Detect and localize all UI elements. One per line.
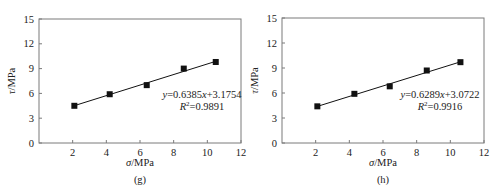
r-squared: R2=0.9916 (417, 100, 463, 112)
y-tick-label: 6 (29, 88, 34, 99)
y-tick-label: 12 (24, 38, 35, 49)
x-tick-label: 12 (236, 147, 247, 158)
plot-frame (282, 18, 484, 143)
r2-value: =0.9891 (190, 101, 225, 112)
data-point (181, 66, 187, 72)
y-axis-title: τ/MPa (249, 67, 260, 94)
regression-equation: y=0.6289x+3.0722 (400, 89, 480, 100)
r-squared: R2=0.9891 (179, 100, 225, 112)
eq-intercept: +3.1754 (207, 89, 243, 100)
y-axis-title: τ/MPa (6, 67, 17, 94)
y-tick-label: 15 (24, 14, 35, 25)
panel-label: (h) (377, 174, 390, 186)
y-axis-unit: /MPa (6, 67, 17, 90)
y-tick-label: 0 (272, 138, 277, 149)
data-point (213, 59, 219, 65)
x-tick-label: 10 (445, 147, 456, 158)
y-tick-label: 9 (272, 63, 277, 74)
regression-equation: y=0.6385x+3.1754 (162, 89, 243, 100)
x-tick-label: 12 (479, 147, 490, 158)
panel-label: (g) (134, 174, 147, 186)
y-axis-unit: /MPa (249, 67, 260, 90)
x-tick-label: 8 (414, 147, 419, 158)
y-tick-label: 6 (272, 88, 277, 99)
x-axis-title: σ/MPa (369, 157, 397, 168)
x-tick-label: 8 (171, 147, 176, 158)
data-point (71, 103, 77, 109)
y-tick-label: 9 (29, 63, 34, 74)
x-tick-label: 10 (202, 147, 213, 158)
y-tick-label: 3 (29, 113, 34, 124)
x-tick-label: 2 (313, 147, 318, 158)
x-tick-label: 4 (347, 147, 353, 158)
x-tick-label: 4 (104, 147, 110, 158)
data-point (314, 103, 320, 109)
eq-coef: =0.6289 (405, 89, 440, 100)
data-point (107, 91, 113, 97)
r2-value: =0.9916 (428, 101, 463, 112)
eq-coef: =0.6385 (167, 89, 202, 100)
data-point (387, 83, 393, 89)
figure: 2468101203691215y=0.6385x+3.1754R2=0.989… (0, 0, 497, 195)
x-axis-unit: /MPa (374, 157, 397, 168)
x-axis-title: σ/MPa (126, 157, 154, 168)
data-point (351, 91, 357, 97)
y-tick-label: 3 (272, 113, 277, 124)
data-point (457, 59, 463, 65)
x-axis-unit: /MPa (131, 157, 154, 168)
plot-frame (39, 19, 241, 143)
x-tick-label: 2 (70, 147, 75, 158)
data-point (144, 82, 150, 88)
data-point (424, 68, 430, 74)
chart-panel-h: 2468101203691215y=0.6289x+3.0722R2=0.991… (249, 13, 489, 187)
eq-intercept: +3.0722 (445, 89, 480, 100)
y-tick-label: 0 (29, 138, 34, 149)
chart-panel-g: 2468101203691215y=0.6385x+3.1754R2=0.989… (6, 14, 246, 187)
y-tick-label: 12 (267, 38, 278, 49)
y-tick-label: 15 (267, 13, 278, 24)
